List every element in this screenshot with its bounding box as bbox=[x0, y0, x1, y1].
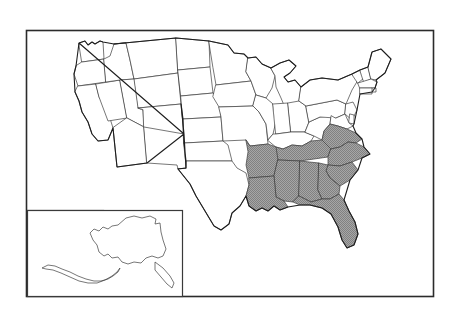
state-iowa bbox=[213, 81, 256, 107]
state-kansas bbox=[183, 117, 223, 143]
state-wyoming bbox=[134, 73, 181, 108]
state-new-mexico bbox=[144, 127, 186, 169]
map-insets bbox=[28, 211, 183, 297]
state-north-dakota bbox=[176, 38, 210, 70]
us-map-figure bbox=[0, 0, 458, 320]
state-oklahoma bbox=[184, 141, 232, 161]
state-arkansas bbox=[246, 140, 278, 178]
us-map-svg bbox=[0, 0, 458, 320]
state-mississippi bbox=[274, 160, 300, 202]
state-washington bbox=[79, 41, 104, 62]
state-south-dakota bbox=[178, 67, 213, 96]
state-delaware bbox=[349, 114, 354, 124]
